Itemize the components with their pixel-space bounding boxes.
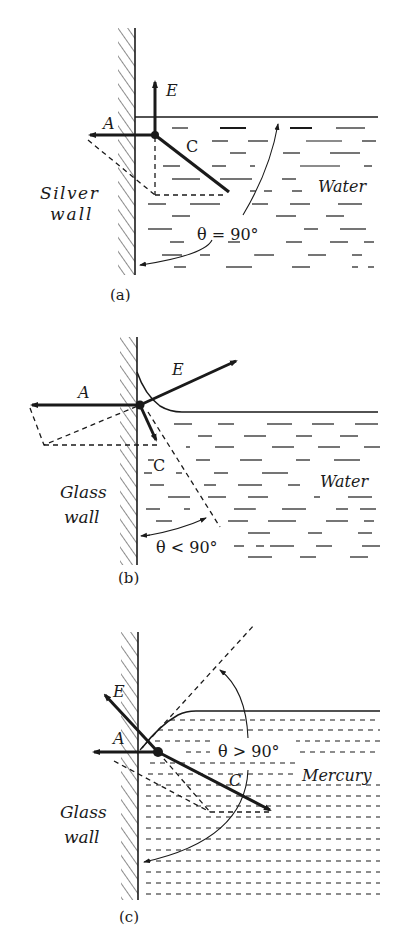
label-E: E	[171, 360, 184, 379]
angle-arc	[145, 518, 206, 536]
vector-C	[140, 405, 156, 440]
angle-label: θ = 90°	[197, 225, 259, 244]
contact-point	[136, 401, 145, 410]
label-A: A	[111, 729, 125, 748]
wall-hatching	[120, 337, 137, 565]
liquid-label: Water	[318, 177, 367, 196]
water-dashes	[148, 128, 376, 267]
caption-c: (c)	[119, 908, 139, 926]
angle-label: θ < 90°	[156, 538, 218, 557]
label-A: A	[101, 114, 115, 133]
wall-label: Glass	[60, 482, 107, 502]
panel-b: E A C Glass wall Water θ < 90° (b)	[30, 337, 380, 587]
wall-label-2: wall	[64, 827, 100, 847]
angle-arc-upper	[220, 670, 248, 738]
label-A: A	[76, 383, 90, 402]
label-C: C	[186, 137, 198, 156]
panel-a: E A C Silver wall Water θ = 90° (a)	[40, 28, 378, 304]
wall-label-2: wall	[64, 507, 100, 527]
contact-point	[151, 131, 159, 139]
panel-c: E A C Glass wall Mercury θ > 90° (c)	[60, 624, 382, 926]
wall-label: Silver	[40, 183, 99, 203]
caption-a: (a)	[110, 286, 131, 304]
wall-label: Glass	[60, 802, 107, 822]
wall-hatching	[118, 28, 135, 275]
contact-angle-figure: E A C Silver wall Water θ = 90° (a)	[0, 0, 406, 942]
angle-arc-upper	[243, 124, 278, 215]
label-E: E	[112, 682, 125, 701]
label-E: E	[165, 81, 178, 100]
vector-E	[140, 361, 236, 405]
wall-label-2: wall	[50, 204, 94, 224]
label-C: C	[153, 456, 165, 475]
label-C: C	[229, 771, 241, 790]
angle-label: θ > 90°	[218, 742, 280, 761]
contact-point	[153, 747, 163, 757]
caption-b: (b)	[118, 569, 139, 587]
construction-lines	[88, 137, 225, 195]
liquid-label: Water	[320, 472, 369, 491]
liquid-label: Mercury	[301, 766, 372, 785]
